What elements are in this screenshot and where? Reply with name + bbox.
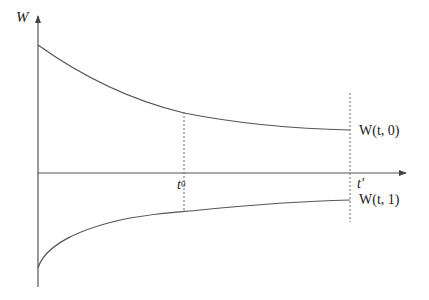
t0-label: t0	[177, 178, 185, 192]
curve-w-t-0	[38, 45, 350, 130]
y-axis-label: W	[16, 10, 29, 25]
diagram-canvas	[0, 0, 429, 300]
curve-w-t-1	[38, 200, 350, 268]
t0-superscript: 0	[181, 179, 186, 189]
t-prime-label: t′	[357, 177, 364, 191]
curve-label-w-t-0: W(t, 0)	[359, 124, 399, 138]
curve-label-w-t-1: W(t, 1)	[359, 193, 399, 207]
